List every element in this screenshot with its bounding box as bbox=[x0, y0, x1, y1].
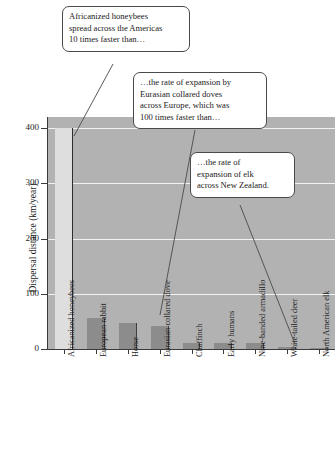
annotation-callout-honeybees: Africanized honeybees spread across the … bbox=[62, 6, 190, 52]
x-axis-tick bbox=[287, 350, 288, 354]
y-axis-tick-label: 0 bbox=[35, 344, 40, 353]
x-axis-tick bbox=[192, 350, 193, 354]
callout-line: spread across the Americas bbox=[69, 23, 183, 35]
callout-line: …the rate of bbox=[197, 157, 288, 169]
y-axis-tick bbox=[41, 239, 48, 240]
callout-line: …the rate of expansion by bbox=[140, 77, 260, 89]
callout-line: across New Zealand. bbox=[197, 180, 288, 192]
x-axis-tick bbox=[319, 350, 320, 354]
callout-line: Eurasian collared doves bbox=[140, 89, 260, 101]
callout-line: 10 times faster than… bbox=[69, 34, 183, 46]
callout-line: 100 times faster than… bbox=[140, 112, 260, 124]
x-axis-tick bbox=[96, 350, 97, 354]
x-axis-tick bbox=[223, 350, 224, 354]
callout-line: across Europe, which was bbox=[140, 100, 260, 112]
y-axis-tick bbox=[41, 349, 48, 350]
x-axis-tick bbox=[128, 350, 129, 354]
x-axis-label-early-humans: Early humans bbox=[227, 311, 236, 357]
x-axis-tick bbox=[64, 350, 65, 354]
y-axis-line bbox=[47, 117, 48, 350]
annotation-callout-doves: …the rate of expansion by Eurasian colla… bbox=[133, 72, 267, 129]
y-axis-tick bbox=[41, 128, 48, 129]
x-axis-label-eurasian-collared-dove: Eurasian collared dove bbox=[163, 280, 172, 357]
x-axis-label-horse: Horse bbox=[131, 337, 140, 357]
x-axis-label-north-american-elk: North American elk bbox=[322, 290, 331, 357]
x-axis-tick bbox=[160, 350, 161, 354]
dispersal-distance-bar-chart: 0100200300400 Dispersal distance (km/yea… bbox=[0, 0, 335, 465]
callout-line: Africanized honeybees bbox=[69, 11, 183, 23]
annotation-callout-elk: …the rate of expansion of elk across New… bbox=[190, 152, 295, 198]
y-axis-tick bbox=[41, 183, 48, 184]
y-axis-tick-label: 400 bbox=[26, 123, 40, 132]
x-axis-label-nine-banded-armadillo: Nine-banded armadillo bbox=[258, 280, 267, 357]
y-axis-tick bbox=[41, 294, 48, 295]
callout-line: expansion of elk bbox=[197, 169, 288, 181]
x-axis-label-white-tailed-deer: White-tailed deer bbox=[290, 299, 299, 357]
x-axis-label-chaffinch: Chaffinch bbox=[195, 324, 204, 357]
x-axis-label-european-rabbit: European rabbit bbox=[99, 303, 108, 357]
x-axis-label-africanized-honeybees: Africanized honeybees bbox=[67, 280, 76, 357]
y-axis-title: Dispersal distance (km/year) bbox=[28, 138, 38, 338]
x-axis-tick bbox=[255, 350, 256, 354]
